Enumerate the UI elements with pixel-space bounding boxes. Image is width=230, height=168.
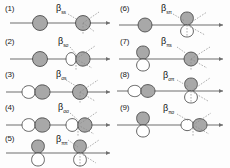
orbital-p-lobe-positive — [76, 52, 90, 66]
orbital-s-left — [33, 16, 48, 31]
panel-graphic-3 — [0, 70, 115, 103]
figure-canvas: (1) βss (2) βsσ — [0, 0, 230, 168]
panel-column-right: (6) βsπ (7) βπs — [115, 0, 230, 168]
orbital-p-lobe-up-right — [74, 140, 87, 153]
panel-1: (1) βss — [0, 4, 115, 37]
orbital-p-lobe-up — [137, 112, 150, 125]
axis-arrowhead — [219, 23, 223, 27]
panel-3: (3) βσs — [0, 70, 115, 103]
panel-7: (7) βπs — [115, 37, 230, 70]
axis-arrowhead — [106, 57, 110, 61]
panel-9: (9) βπσ — [115, 103, 230, 136]
orbital-p-lobe-negative — [66, 53, 76, 66]
axis-arrowhead — [219, 123, 223, 127]
orbital-p-lobe-positive-right — [78, 118, 92, 132]
panel-graphic-1 — [0, 4, 115, 37]
orbital-p-lobe-up — [137, 46, 150, 59]
orbital-p-lobe-up — [185, 78, 198, 91]
orbital-p-lobe-positive — [193, 119, 207, 132]
panel-2: (2) βsσ — [0, 37, 115, 70]
orbital-p-lobe-negative — [128, 85, 141, 96]
orbital-s-left — [33, 52, 48, 67]
axis-arrowhead — [106, 90, 110, 94]
orbital-p-lobe-negative-right — [66, 119, 78, 132]
panel-8: (8) βσπ — [115, 70, 230, 103]
orbital-p-lobe-up — [181, 12, 194, 25]
panel-column-left: (1) βss (2) βsσ — [0, 0, 115, 168]
panel-graphic-9 — [115, 103, 230, 136]
panel-5: (5) βππ — [0, 134, 115, 167]
label-leader-line — [177, 114, 189, 121]
axis-arrowhead — [106, 21, 110, 25]
orbital-p-lobe-negative — [22, 86, 35, 99]
panel-6: (6) βsπ — [115, 4, 230, 37]
panel-graphic-4 — [0, 103, 115, 136]
axis-arrowhead — [219, 57, 223, 61]
orbital-p-lobe-positive-left — [35, 118, 50, 132]
panel-4: (4) βσσ — [0, 103, 115, 136]
label-leader-line — [66, 80, 76, 86]
orbital-p-lobe-positive — [141, 85, 155, 98]
orbital-p-lobe-positive — [35, 85, 50, 99]
panel-graphic-2 — [0, 37, 115, 70]
orbital-p-lobe-up-left — [32, 140, 45, 153]
orbital-p-lobe-down-left — [32, 153, 45, 166]
orbital-s-left — [138, 18, 152, 32]
panel-graphic-7 — [115, 37, 230, 70]
panel-graphic-5 — [0, 134, 115, 168]
axis-arrowhead — [219, 89, 223, 93]
panel-graphic-8 — [115, 70, 230, 103]
panel-graphic-6 — [115, 4, 230, 37]
label-leader-line — [177, 47, 187, 54]
orbital-p-lobe-negative-left — [22, 119, 35, 132]
orbital-p-lobe-negative — [181, 119, 193, 130]
axis-arrowhead — [106, 123, 110, 127]
orbital-p-lobe-down — [137, 125, 150, 137]
axis-arrowhead — [106, 151, 110, 155]
